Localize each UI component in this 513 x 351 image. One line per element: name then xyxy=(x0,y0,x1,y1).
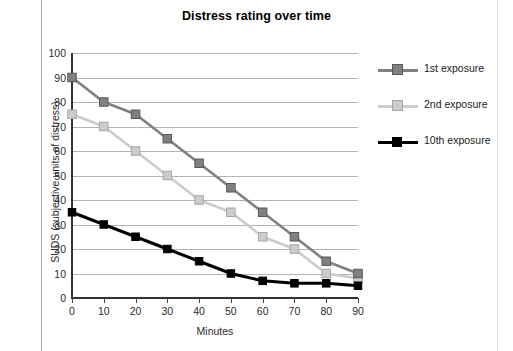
x-tick-label: 30 xyxy=(161,305,173,317)
legend-marker xyxy=(392,100,403,111)
legend-swatch xyxy=(378,136,418,148)
x-tick-mark xyxy=(199,298,200,303)
data-point-marker xyxy=(322,269,331,278)
y-tick-label: 60 xyxy=(54,145,66,157)
legend-label: 2nd exposure xyxy=(424,98,488,110)
data-point-marker xyxy=(354,269,363,278)
y-tick-label: 70 xyxy=(54,121,66,133)
x-tick-label: 10 xyxy=(98,305,110,317)
y-tick-label: 30 xyxy=(54,219,66,231)
x-tick-label: 40 xyxy=(193,305,205,317)
y-tick-label: 10 xyxy=(54,268,66,280)
legend-label: 1st exposure xyxy=(424,62,484,74)
legend-swatch xyxy=(378,64,418,76)
data-point-marker xyxy=(291,280,299,288)
x-tick-mark xyxy=(104,298,105,303)
x-tick-label: 90 xyxy=(352,305,364,317)
y-tick-label: 90 xyxy=(54,72,66,84)
legend-item[interactable]: 2nd exposure xyxy=(378,91,498,127)
data-point-marker xyxy=(258,233,267,242)
data-point-marker xyxy=(195,159,204,168)
x-tick-label: 50 xyxy=(225,305,237,317)
data-point-marker xyxy=(163,135,172,144)
series-line xyxy=(72,212,358,286)
plot-area: 0102030405060708090100 01020304050607080… xyxy=(72,53,358,298)
x-axis-title: Minutes xyxy=(72,325,358,337)
data-point-marker xyxy=(322,257,331,266)
page-rule-right xyxy=(497,0,498,351)
x-tick-mark xyxy=(263,298,264,303)
data-point-marker xyxy=(132,233,140,241)
x-tick-mark xyxy=(72,298,73,303)
legend: 1st exposure2nd exposure10th exposure xyxy=(378,55,498,163)
series-line xyxy=(72,78,358,274)
data-point-marker xyxy=(100,221,108,229)
legend-marker xyxy=(392,137,402,147)
data-point-marker xyxy=(131,147,140,156)
data-point-marker xyxy=(290,245,299,254)
data-point-marker xyxy=(195,258,203,266)
series-2nd-exposure xyxy=(68,110,363,283)
legend-item[interactable]: 1st exposure xyxy=(378,55,498,91)
x-tick-label: 80 xyxy=(320,305,332,317)
series-1st-exposure xyxy=(68,73,363,278)
data-point-marker xyxy=(100,122,109,131)
data-point-marker xyxy=(322,280,330,288)
x-tick-mark xyxy=(231,298,232,303)
data-point-marker xyxy=(68,73,77,82)
data-point-marker xyxy=(290,233,299,242)
data-point-marker xyxy=(68,209,76,217)
data-point-marker xyxy=(100,98,109,107)
data-point-marker xyxy=(164,245,172,253)
series-10th-exposure xyxy=(68,209,362,290)
x-tick-label: 70 xyxy=(289,305,301,317)
y-tick-label: 80 xyxy=(54,96,66,108)
data-point-marker xyxy=(131,110,140,119)
data-point-marker xyxy=(354,282,362,290)
page-rule-left xyxy=(41,0,42,351)
legend-item[interactable]: 10th exposure xyxy=(378,127,498,163)
y-tick-label: 40 xyxy=(54,194,66,206)
y-tick-label: 20 xyxy=(54,243,66,255)
x-tick-label: 60 xyxy=(257,305,269,317)
data-point-marker xyxy=(163,171,172,180)
data-point-marker xyxy=(195,196,204,205)
y-tick-label: 0 xyxy=(60,292,66,304)
data-point-marker xyxy=(258,208,267,217)
data-point-marker xyxy=(227,208,236,217)
x-tick-label: 0 xyxy=(69,305,75,317)
data-point-marker xyxy=(227,270,235,278)
legend-swatch xyxy=(378,100,418,112)
y-tick-label: 50 xyxy=(54,170,66,182)
x-tick-mark xyxy=(326,298,327,303)
x-tick-mark xyxy=(358,298,359,303)
legend-marker xyxy=(392,64,403,75)
x-tick-mark xyxy=(294,298,295,303)
y-tick-label: 100 xyxy=(48,47,66,59)
chart-page: Distress rating over time SUDS (subjecti… xyxy=(0,0,513,351)
data-point-marker xyxy=(68,110,77,119)
chart-title: Distress rating over time xyxy=(0,9,513,23)
x-tick-label: 20 xyxy=(130,305,142,317)
x-tick-mark xyxy=(167,298,168,303)
data-point-marker xyxy=(259,277,267,285)
data-point-marker xyxy=(227,184,236,193)
x-tick-mark xyxy=(136,298,137,303)
series-layer xyxy=(72,53,358,298)
legend-label: 10th exposure xyxy=(424,134,491,146)
